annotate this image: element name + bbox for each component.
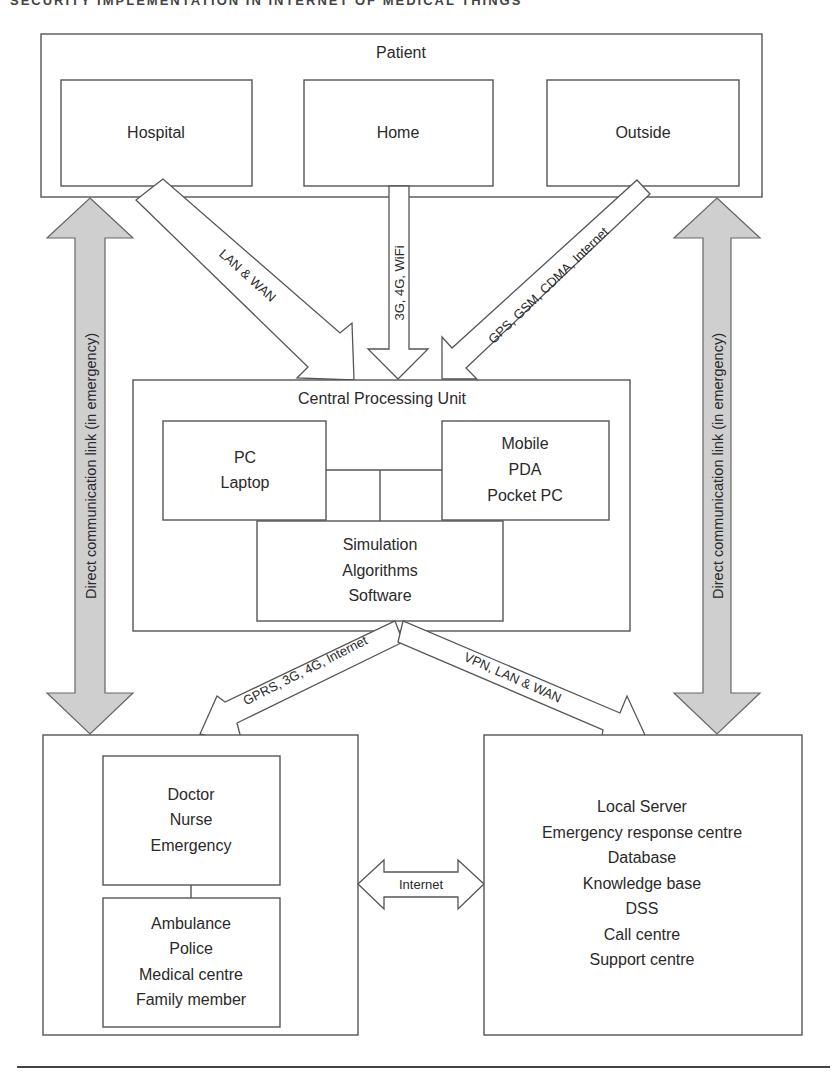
- service-item: Emergency response centre: [542, 824, 742, 841]
- services-downlink-arrow: VPN, LAN & WAN: [398, 621, 645, 748]
- algorithms-label: Algorithms: [342, 562, 418, 579]
- services-group: Local Server Emergency response centre D…: [484, 735, 802, 1035]
- outside-uplink-label: GPS, GSM, CDMA, Internet: [485, 224, 612, 347]
- hollow-arrow-icon: [200, 621, 403, 746]
- medical-centre-label: Medical centre: [139, 966, 243, 983]
- hospital-uplink-arrow: LAN & WAN: [136, 179, 354, 380]
- patient-title: Patient: [376, 44, 426, 61]
- service-item: Local Server: [597, 798, 687, 815]
- family-member-label: Family member: [136, 991, 247, 1008]
- service-item: Knowledge base: [583, 875, 701, 892]
- service-item: Database: [608, 849, 677, 866]
- right-emergency-link: Direct communication link (in emergency): [674, 198, 760, 734]
- home-uplink-label: 3G, 4G, WiFi: [392, 245, 407, 320]
- caption-rule: [17, 1066, 830, 1068]
- doctor-label: Doctor: [167, 786, 215, 803]
- outside-uplink-arrow: GPS, GSM, CDMA, Internet: [442, 180, 650, 379]
- police-label: Police: [169, 940, 213, 957]
- home-label: Home: [377, 124, 420, 141]
- care-providers-group: Doctor Nurse Emergency Ambulance Police …: [43, 735, 358, 1035]
- left-emergency-link: Direct communication link (in emergency): [47, 198, 133, 734]
- iomt-architecture-diagram: Patient Hospital Home Outside LAN & WAN …: [0, 0, 838, 1078]
- pc-label: PC: [234, 449, 256, 466]
- ambulance-label: Ambulance: [151, 915, 231, 932]
- internet-peer-label: Internet: [399, 877, 443, 892]
- pda-label: PDA: [509, 461, 542, 478]
- software-label: Software: [348, 587, 411, 604]
- services-downlink-label: VPN, LAN & WAN: [462, 649, 564, 705]
- left-emergency-label: Direct communication link (in emergency): [83, 333, 99, 599]
- hospital-label: Hospital: [127, 124, 185, 141]
- care-downlink-label: GPRS, 3G, 4G, Internet: [241, 632, 370, 708]
- outside-label: Outside: [615, 124, 670, 141]
- laptop-label: Laptop: [221, 474, 270, 491]
- pc-laptop-box: [163, 421, 326, 520]
- pocket-pc-label: Pocket PC: [487, 487, 563, 504]
- home-uplink-arrow: 3G, 4G, WiFi: [368, 186, 428, 379]
- simulation-label: Simulation: [343, 536, 418, 553]
- cpu-group: Central Processing Unit PC Laptop Mobile…: [133, 380, 630, 631]
- nurse-label: Nurse: [170, 811, 213, 828]
- service-item: Support centre: [590, 951, 695, 968]
- right-emergency-label: Direct communication link (in emergency): [710, 333, 726, 599]
- service-item: Call centre: [604, 926, 681, 943]
- emergency-label: Emergency: [151, 837, 232, 854]
- service-item: DSS: [626, 900, 659, 917]
- patient-group: Patient Hospital Home Outside: [41, 34, 762, 197]
- cpu-title: Central Processing Unit: [298, 390, 467, 407]
- mobile-label: Mobile: [501, 435, 548, 452]
- care-downlink-arrow: GPRS, 3G, 4G, Internet: [200, 621, 403, 746]
- internet-peer-link: Internet: [358, 860, 484, 909]
